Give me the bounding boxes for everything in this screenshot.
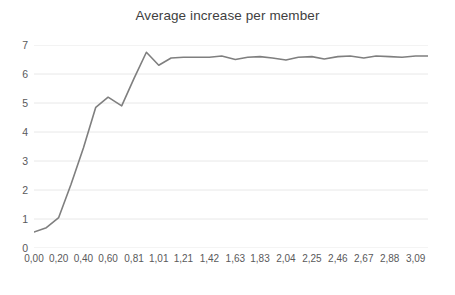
x-axis-tick-label: 2,67 <box>354 253 373 264</box>
x-axis-tick-label: 2,25 <box>302 253 321 264</box>
x-axis-tick-label: 2,88 <box>380 253 399 264</box>
x-axis-tick-label: 0,40 <box>74 253 93 264</box>
y-axis-tick-label: 7 <box>0 39 28 51</box>
y-axis-tick-label: 1 <box>0 213 28 225</box>
data-series-line <box>34 45 428 248</box>
series-line <box>34 52 428 232</box>
y-axis: 01234567 <box>0 45 28 248</box>
y-axis-tick-label: 6 <box>0 68 28 80</box>
y-axis-tick-label: 5 <box>0 97 28 109</box>
y-axis-tick-label: 2 <box>0 184 28 196</box>
x-axis: 0,000,200,400,600,811,011,211,421,631,83… <box>34 253 428 269</box>
x-axis-tick-label: 0,60 <box>98 253 117 264</box>
x-axis-tick-label: 0,20 <box>49 253 68 264</box>
plot-area <box>34 45 428 248</box>
y-axis-tick-label: 4 <box>0 126 28 138</box>
x-axis-tick-label: 2,04 <box>276 253 295 264</box>
chart-container: Average increase per member 01234567 0,0… <box>0 0 455 295</box>
y-axis-tick-label: 3 <box>0 155 28 167</box>
x-axis-tick-label: 2,46 <box>328 253 347 264</box>
x-axis-tick-label: 3,09 <box>406 253 425 264</box>
x-axis-tick-label: 1,21 <box>174 253 193 264</box>
x-axis-tick-label: 1,01 <box>149 253 168 264</box>
chart-title: Average increase per member <box>0 8 455 23</box>
x-axis-tick-label: 1,63 <box>226 253 245 264</box>
x-axis-tick-label: 0,00 <box>24 253 43 264</box>
x-axis-tick-label: 0,81 <box>124 253 143 264</box>
x-axis-tick-label: 1,42 <box>200 253 219 264</box>
x-axis-tick-label: 1,83 <box>250 253 269 264</box>
